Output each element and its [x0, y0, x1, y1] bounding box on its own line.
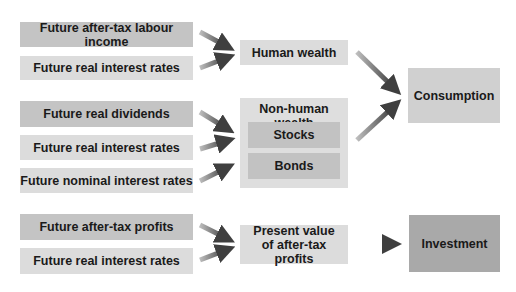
consumption-label: Consumption — [414, 89, 495, 103]
input-label: Future real interest rates — [33, 254, 180, 268]
nonhuman-wealth-box: Non-human wealth Stocks Bonds — [240, 98, 348, 188]
input-future-real-dividends: Future real dividends — [20, 101, 193, 127]
bonds-box: Bonds — [248, 153, 340, 179]
human-wealth-box: Human wealth — [240, 40, 348, 65]
input-label: Future after-tax profits — [39, 220, 173, 234]
stocks-label: Stocks — [274, 128, 315, 142]
bonds-label: Bonds — [275, 159, 314, 173]
human-wealth-label: Human wealth — [252, 46, 337, 60]
input-future-real-interest-rates-human: Future real interest rates — [20, 56, 193, 80]
input-label: Future real interest rates — [33, 141, 180, 155]
present-value-box: Present value of after-tax profits — [240, 225, 348, 264]
consumption-box: Consumption — [408, 68, 500, 123]
input-label: Future after-tax labour income — [20, 21, 193, 49]
input-label: Future nominal interest rates — [20, 174, 192, 188]
investment-label: Investment — [422, 237, 488, 251]
stocks-box: Stocks — [248, 122, 340, 148]
input-label: Future real interest rates — [33, 61, 180, 75]
input-future-nominal-interest-rates: Future nominal interest rates — [20, 168, 193, 193]
input-future-real-interest-rates-profits: Future real interest rates — [20, 248, 193, 274]
present-value-label: Present value of after-tax profits — [240, 224, 348, 266]
input-label: Future real dividends — [43, 107, 169, 121]
investment-box: Investment — [409, 215, 500, 272]
input-future-after-tax-labour-income: Future after-tax labour income — [20, 22, 193, 47]
input-future-after-tax-profits: Future after-tax profits — [20, 214, 193, 240]
input-future-real-interest-rates-nonhuman: Future real interest rates — [20, 135, 193, 160]
